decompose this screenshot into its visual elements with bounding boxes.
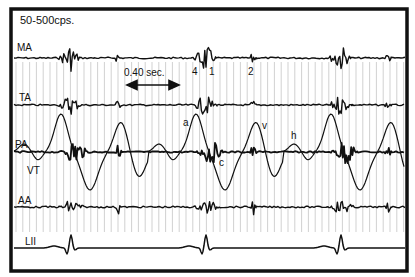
plot-area xyxy=(0,0,415,277)
trace-label-vt: VT xyxy=(27,166,40,176)
trace-label-pa: PA xyxy=(15,140,28,150)
heart-sound-1-label: 1 xyxy=(209,67,215,77)
time-scale-label: 0.40 sec. xyxy=(124,68,165,78)
trace-label-ma: MA xyxy=(17,43,32,53)
heart-sound-2-label: 2 xyxy=(248,67,254,77)
venous-wave-h-label: h xyxy=(291,131,297,141)
venous-wave-a-label: a xyxy=(183,118,189,128)
trace-label-ta: TA xyxy=(19,93,31,103)
phonocardiogram-figure: 50-500cps. MA TA PA VT AA LII 0.40 sec. … xyxy=(0,0,415,277)
heart-sound-4-label: 4 xyxy=(192,67,198,77)
trace-label-lii: LII xyxy=(25,237,36,247)
trace-label-aa: AA xyxy=(18,196,31,206)
venous-wave-v-label: v xyxy=(262,121,267,131)
filter-label: 50-500cps. xyxy=(20,15,74,26)
venous-wave-c-label: c xyxy=(219,158,224,168)
